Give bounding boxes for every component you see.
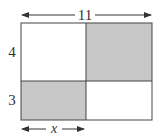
diagram-canvas: 11 4 3 x: [0, 0, 160, 139]
region-bottom-left: [21, 81, 86, 120]
region-bottom-right: [86, 81, 152, 120]
region-top-right: [86, 23, 152, 81]
bottom-height-label: 3: [8, 92, 16, 108]
total-width-label: 11: [78, 7, 92, 23]
region-top-left: [21, 23, 86, 81]
top-height-label: 4: [8, 44, 16, 60]
x-width-label: x: [50, 121, 58, 136]
